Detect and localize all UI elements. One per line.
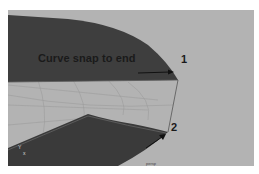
point-2-label: 2 xyxy=(171,121,177,133)
3d-viewport[interactable]: Curve snap to end 1 2 Y x persp xyxy=(8,10,254,166)
axis-x-label: x xyxy=(23,150,26,156)
axis-gizmo-icon: Y x xyxy=(16,144,30,158)
annotation-title: Curve snap to end xyxy=(38,52,136,64)
axis-y-label: Y xyxy=(18,144,21,150)
scene-canvas xyxy=(8,10,254,166)
top-surface xyxy=(8,15,178,82)
camera-label: persp xyxy=(146,161,156,166)
point-1-label: 1 xyxy=(181,53,187,65)
